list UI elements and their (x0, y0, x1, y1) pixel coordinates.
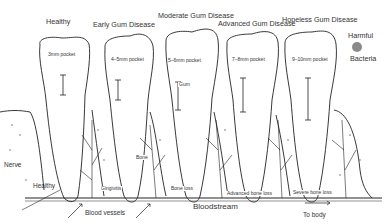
pocket-label-advanced: 7–8mm pocket (232, 57, 265, 62)
stage-title-healthy: Healthy (46, 18, 70, 25)
to-body-label: To body (303, 212, 326, 219)
pocket-label-early: 4–5mm pocket (111, 57, 144, 62)
tooth-crown-4 (227, 32, 279, 100)
tooth-crown-3 (166, 29, 219, 100)
bone-loss-label: Bone loss (170, 186, 194, 191)
bacteria-dot-icon (352, 42, 362, 52)
gum-disease-illustration (0, 0, 392, 224)
severe-bone-loss-label: Severe bone loss (292, 190, 333, 195)
bloodstream-label: Bloodstream (193, 203, 238, 211)
healthy-root-label: Healthy (33, 183, 55, 190)
pocket-label-moderate: 5–6mm pocket (168, 58, 201, 63)
pocket-label-hopeless: 9–10mm pocket (292, 57, 328, 62)
bone-label: Bone (135, 155, 149, 160)
nerve-label: Nerve (4, 162, 21, 169)
blood-vessels-label: Blood vessels (85, 210, 125, 217)
pocket-label-healthy: 3mm pocket (48, 52, 75, 57)
stage-title-hopeless: Hopeless Gum Disease (282, 16, 358, 23)
tooth-crown-5 (285, 31, 337, 100)
advanced-bone-loss-label: Advanced bone loss (226, 191, 273, 196)
gum-label: Gum (178, 82, 191, 87)
tooth-crown-2 (105, 34, 154, 100)
stage-title-early: Early Gum Disease (93, 21, 155, 28)
legend-bacteria: Bacteria (350, 55, 376, 62)
gingivitis-label: Gingivitis (100, 186, 122, 191)
tooth-crown-1 (40, 37, 90, 100)
legend-harmful: Harmful (348, 32, 373, 39)
